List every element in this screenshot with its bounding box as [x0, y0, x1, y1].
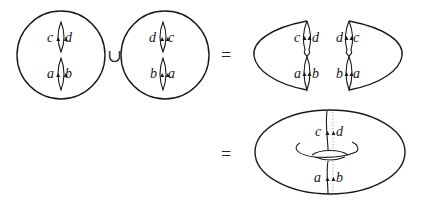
torus-outer-boundary — [255, 110, 405, 194]
label-b: b — [336, 66, 343, 81]
arrow-up-icon — [345, 72, 349, 76]
left-disk-boundary — [17, 11, 105, 99]
label-c: c — [353, 30, 360, 45]
arrow-up-icon — [326, 131, 330, 135]
label-d: d — [336, 124, 344, 139]
label-b: b — [150, 66, 157, 81]
label-d: d — [312, 30, 320, 45]
label-a: a — [294, 66, 301, 81]
label-b: b — [312, 66, 319, 81]
arrow-up-icon — [160, 73, 164, 77]
label-d: d — [336, 30, 344, 45]
arrow-up-icon — [332, 131, 336, 135]
right-disk-boundary — [121, 11, 209, 99]
right-disk-top-slit — [160, 22, 166, 52]
label-d: d — [149, 30, 157, 45]
label-a: a — [353, 66, 360, 81]
label-a: a — [168, 66, 175, 81]
label-c: c — [315, 124, 322, 139]
left-disk-top-slit — [58, 22, 64, 52]
torus-hole-inner-upper — [312, 151, 348, 156]
label-c: c — [168, 30, 175, 45]
label-a: a — [47, 66, 54, 81]
equals-symbol: = — [221, 144, 231, 164]
left-half-surface: c d a b — [254, 21, 320, 90]
arrow-up-icon — [56, 73, 60, 77]
arrow-up-icon — [308, 72, 312, 76]
arrow-up-icon — [160, 37, 164, 41]
label-d: d — [65, 30, 73, 45]
equals-symbol: = — [221, 45, 231, 65]
diagram-canvas: c d a b ∪ d c b a = c d a — [0, 0, 421, 207]
label-b: b — [65, 66, 72, 81]
left-disk-bottom-slit — [58, 58, 64, 90]
label-b: b — [336, 170, 343, 185]
right-disk: d c b a — [121, 11, 209, 99]
label-c: c — [47, 30, 54, 45]
right-half-surface: d c b a — [336, 21, 402, 90]
torus-hole-front — [296, 142, 358, 157]
right-disk-bottom-slit — [160, 58, 166, 90]
torus: c d a b — [255, 110, 405, 194]
arrow-up-icon — [56, 37, 60, 41]
union-symbol: ∪ — [107, 46, 122, 66]
arrow-up-icon — [326, 177, 330, 181]
arrow-up-icon — [332, 177, 336, 181]
label-a: a — [314, 170, 321, 185]
label-c: c — [294, 30, 301, 45]
arrow-up-icon — [303, 72, 307, 76]
torus-seam-top — [326, 111, 328, 150]
left-disk: c d a b — [17, 11, 105, 99]
